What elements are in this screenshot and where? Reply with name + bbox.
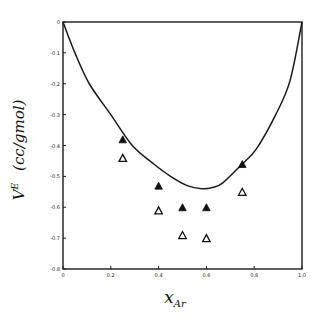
filled-triangle-marker bbox=[179, 204, 187, 211]
open-triangle-marker bbox=[203, 235, 211, 242]
x-axis-label: xAr bbox=[164, 287, 187, 309]
fitted-curve bbox=[63, 22, 302, 189]
filled-triangle-marker bbox=[203, 204, 211, 211]
open-triangle-marker bbox=[239, 188, 247, 195]
y-tick-label: -0.1 bbox=[50, 50, 60, 56]
x-tick-label: 0.2 bbox=[107, 272, 115, 278]
open-triangle-marker bbox=[179, 232, 187, 239]
svg-text:VE(cc/gmol): VE(cc/gmol) bbox=[10, 100, 28, 201]
y-axis-label-units: (cc/gmol) bbox=[10, 100, 28, 171]
y-tick-label: -0.8 bbox=[50, 266, 60, 272]
x-tick-label: 0.8 bbox=[250, 272, 258, 278]
x-axis-label-main: x bbox=[164, 287, 174, 307]
y-tick-label: -0.2 bbox=[50, 81, 60, 87]
curve-line bbox=[63, 22, 302, 189]
chart: 0-0.1-0.2-0.3-0.4-0.5-0.6-0.7-0.8 00.20.… bbox=[0, 0, 321, 323]
filled-triangle-marker bbox=[155, 182, 163, 189]
x-tick-label: 1.0 bbox=[298, 272, 306, 278]
open-triangle-marker bbox=[155, 207, 163, 214]
x-tick-label: 0.4 bbox=[155, 272, 163, 278]
x-tick-label: 0.6 bbox=[202, 272, 210, 278]
y-axis-label-sup: E bbox=[10, 182, 20, 190]
open-triangle-marker bbox=[119, 154, 127, 161]
y-tick-label: -0.5 bbox=[50, 173, 60, 179]
y-tick-label: -0.4 bbox=[50, 143, 60, 149]
x-axis-label-sub: Ar bbox=[173, 298, 187, 309]
y-axis-label: VE(cc/gmol) bbox=[10, 100, 28, 201]
y-tick-label: -0.3 bbox=[50, 112, 60, 118]
svg-text:xAr: xAr bbox=[164, 287, 187, 309]
x-axis-ticks: 00.20.40.60.81.0 bbox=[61, 266, 306, 278]
y-tick-label: -0.7 bbox=[50, 235, 60, 241]
y-tick-label: 0 bbox=[57, 19, 60, 25]
y-tick-label: -0.6 bbox=[50, 204, 60, 210]
x-tick-label: 0 bbox=[61, 272, 64, 278]
